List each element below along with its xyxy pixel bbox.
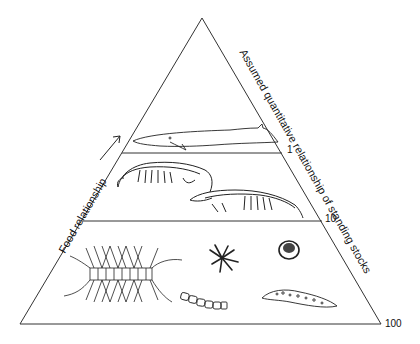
- stock-value-whale: 1: [287, 144, 293, 155]
- star-diatom-icon: [210, 245, 238, 272]
- elongated-diatom-icon: [262, 290, 337, 307]
- cell-chain-icon: [180, 292, 227, 309]
- krill-icon: [117, 162, 212, 192]
- pyramid-outline: [20, 18, 381, 324]
- stock-value-phytoplankton: 100: [385, 318, 402, 329]
- whale-icon: [133, 124, 278, 150]
- round-diatom-icon: [279, 241, 299, 259]
- chain-diatom-icon: [64, 246, 182, 302]
- pyramid-diagram: [0, 0, 420, 344]
- food-arrow-icon: [100, 136, 120, 160]
- stock-value-krill: 10: [325, 213, 336, 224]
- krill-icon: [190, 190, 303, 218]
